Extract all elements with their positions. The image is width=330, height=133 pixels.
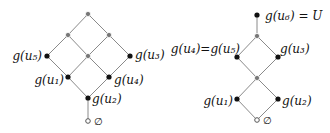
left-label-u1: g(u₁)	[34, 73, 64, 87]
left-node-r2l	[65, 32, 70, 37]
right-node-mid	[254, 75, 259, 80]
left-node-r2r	[106, 32, 111, 37]
left-node-empty	[86, 119, 91, 124]
right-label-u3: g(u₃)	[280, 42, 310, 56]
right-node-u2	[275, 96, 280, 101]
left-label-u5: g(u₅)	[12, 49, 42, 63]
left-node-u2	[85, 95, 90, 100]
right-edges	[237, 15, 278, 120]
left-node-u3	[127, 53, 132, 58]
left-label-empty: ∅	[94, 116, 103, 127]
left-node-u5	[44, 53, 49, 58]
right-label-u2: g(u₂)	[282, 94, 312, 108]
right-label-u6: g(u₆) = U	[265, 9, 323, 23]
left-label-u2: g(u₂)	[92, 92, 122, 106]
right-label-u1: g(u₁)	[203, 94, 233, 108]
left-label-u3: g(u₃)	[135, 48, 165, 62]
left-label-u4: g(u₄)	[114, 73, 144, 87]
right-label-u45: g(u₄)=g(u₅)	[171, 42, 241, 56]
right-lattice: g(u₆) = U g(u₄)=g(u₅) g(u₃) g(u₁) g(u₂) …	[171, 9, 324, 126]
left-node-mid	[85, 53, 90, 58]
right-node-u1	[234, 96, 239, 101]
right-node-u6	[254, 12, 259, 17]
right-label-empty: ∅	[263, 115, 272, 126]
left-node-u4	[106, 74, 111, 79]
left-node-u1	[65, 74, 70, 79]
left-lattice: g(u₅) g(u₃) g(u₁) g(u₄) g(u₂) ∅	[12, 11, 164, 126]
right-node-empty	[255, 118, 260, 123]
left-node-top	[85, 11, 90, 16]
lattice-diagrams: g(u₅) g(u₃) g(u₁) g(u₄) g(u₂) ∅ g(u₆) = …	[0, 0, 330, 133]
right-node-top	[254, 33, 259, 38]
